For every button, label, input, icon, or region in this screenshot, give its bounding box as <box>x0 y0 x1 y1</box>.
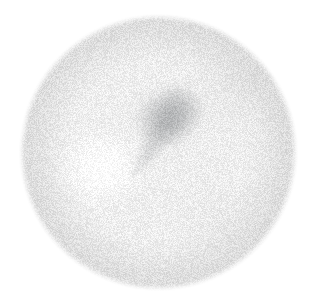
specimen-image <box>0 0 315 302</box>
figure-root <box>0 0 315 302</box>
